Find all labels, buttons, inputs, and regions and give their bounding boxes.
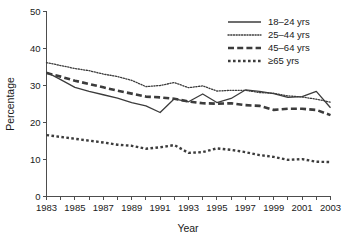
- x-tick-label: 2003: [320, 202, 341, 213]
- series-line-3: [47, 135, 331, 162]
- figure-container: 01020304050 1983198519871989199119931995…: [0, 0, 344, 238]
- x-tick-label: 1987: [93, 202, 114, 213]
- x-tick-label: 2001: [292, 202, 313, 213]
- series-line-2: [47, 73, 331, 115]
- x-tick-label: 1993: [178, 202, 199, 213]
- x-tick-label: 1989: [121, 202, 142, 213]
- series-line-0: [47, 72, 331, 112]
- legend-label-1: 25–44 yrs: [268, 29, 310, 40]
- x-tick-label: 1997: [235, 202, 256, 213]
- y-axis-title: Percentage: [4, 77, 16, 131]
- x-tick-label: 1991: [150, 202, 171, 213]
- chart-legend: 18–24 yrs25–44 yrs45–64 yrs≥65 yrs: [228, 16, 310, 66]
- y-tick-label: 20: [30, 117, 41, 128]
- series-line-1: [47, 63, 331, 103]
- y-tick-label: 10: [30, 154, 41, 165]
- x-tick-label: 1983: [36, 202, 57, 213]
- legend-label-2: 45–64 yrs: [268, 42, 310, 53]
- x-axis-ticks: 1983198519871989199119931995199719992001…: [36, 197, 341, 213]
- x-tick-label: 1995: [206, 202, 227, 213]
- data-series-group: [47, 63, 331, 163]
- y-tick-label: 0: [35, 191, 40, 202]
- y-tick-label: 50: [30, 6, 41, 17]
- y-axis-ticks: 01020304050: [30, 6, 47, 202]
- y-tick-label: 30: [30, 80, 41, 91]
- legend-label-0: 18–24 yrs: [268, 16, 310, 27]
- x-tick-label: 1999: [263, 202, 284, 213]
- legend-label-3: ≥65 yrs: [268, 55, 299, 66]
- y-tick-label: 40: [30, 43, 41, 54]
- x-tick-label: 1985: [64, 202, 85, 213]
- x-axis-title: Year: [177, 222, 199, 234]
- line-chart: 01020304050 1983198519871989199119931995…: [0, 0, 344, 238]
